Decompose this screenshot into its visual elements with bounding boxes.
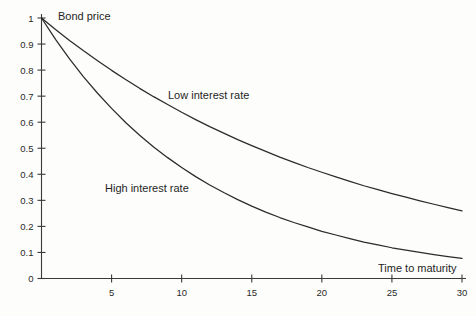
- annotation-group: Bond priceLow interest rateHigh interest…: [58, 10, 457, 274]
- y-tick-label: 0.9: [20, 39, 33, 50]
- annotation-time-to-maturity: Time to maturity: [378, 262, 457, 274]
- series-group: [42, 18, 463, 258]
- y-tick-label: 1: [28, 13, 33, 24]
- y-tick-label: 0.8: [20, 65, 33, 76]
- annotation-high-interest-rate: High interest rate: [105, 182, 189, 194]
- x-tick-label: 20: [317, 287, 328, 298]
- y-tick-label: 0.5: [20, 143, 33, 154]
- y-tick-label: 0.1: [20, 247, 33, 258]
- series-curve-high-interest-rate: [42, 18, 463, 258]
- annotation-bond-price: Bond price: [58, 10, 111, 22]
- y-tick-label: 0.7: [20, 91, 33, 102]
- x-tick-label: 30: [457, 287, 468, 298]
- x-tick-label: 15: [246, 287, 257, 298]
- y-tick-label: 0.6: [20, 117, 33, 128]
- y-tick-label: 0.4: [20, 169, 33, 180]
- chart-page: 00.10.20.30.40.50.60.70.80.91 5101520253…: [0, 0, 476, 316]
- bond-price-chart: 00.10.20.30.40.50.60.70.80.91 5101520253…: [0, 0, 476, 316]
- x-tick-label: 5: [109, 287, 114, 298]
- y-tick-label: 0.3: [20, 195, 33, 206]
- x-tick-label: 25: [387, 287, 398, 298]
- y-tick-label: 0.2: [20, 221, 33, 232]
- annotation-low-interest-rate: Low interest rate: [168, 89, 249, 101]
- x-tick-label: 10: [176, 287, 187, 298]
- y-tick-label: 0: [28, 273, 33, 284]
